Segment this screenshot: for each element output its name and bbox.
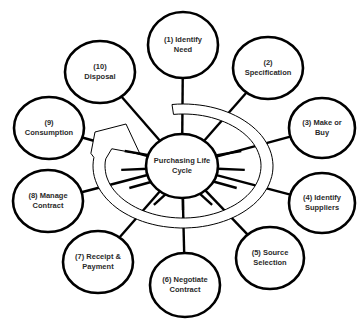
stage-label-line2: Need bbox=[164, 45, 202, 55]
inner-spoke bbox=[129, 182, 152, 189]
center-node-label: Purchasing Life Cycle bbox=[154, 156, 210, 176]
stage-node-2: (2) Specification bbox=[245, 58, 292, 78]
center-label-line2: Cycle bbox=[154, 166, 210, 176]
stage-node-9: (9) Consumption bbox=[25, 118, 73, 138]
stage-node-5: (5) Source Selection bbox=[252, 248, 289, 268]
inner-spoke bbox=[213, 182, 236, 189]
stage-label-line2: Contract bbox=[162, 285, 207, 295]
stage-label-line2: Disposal bbox=[84, 72, 115, 82]
stage-label-line2: Suppliers bbox=[303, 203, 341, 213]
stage-label-line1: (5) Source bbox=[252, 248, 289, 258]
stage-node-10: (10) Disposal bbox=[84, 62, 115, 82]
stage-label-line2: Buy bbox=[302, 128, 342, 138]
inner-spoke bbox=[216, 151, 241, 155]
stage-label-line1: (4) Identify bbox=[303, 193, 341, 203]
stage-label-line1: (9) bbox=[25, 118, 73, 128]
stage-label-line1: (6) Negotiate bbox=[162, 275, 207, 285]
stage-node-1: (1) Identify Need bbox=[164, 35, 202, 55]
inner-spoke bbox=[218, 169, 245, 170]
stage-label-line2: Contract bbox=[28, 201, 67, 211]
stage-label-line1: (2) bbox=[245, 58, 292, 68]
stage-node-3: (3) Make or Buy bbox=[302, 118, 342, 138]
stage-label-line1: (3) Make or bbox=[302, 118, 342, 128]
connector-line bbox=[82, 175, 148, 192]
stage-label-line1: (8) Manage bbox=[28, 191, 67, 201]
stage-node-7: (7) Receipt & Payment bbox=[75, 252, 121, 272]
stage-label-line1: (7) Receipt & bbox=[75, 252, 121, 262]
stage-label-line2: Specification bbox=[245, 68, 292, 78]
stage-node-4: (4) Identify Suppliers bbox=[303, 193, 341, 213]
stage-label-line2: Payment bbox=[75, 262, 121, 272]
stage-node-8: (8) Manage Contract bbox=[28, 191, 67, 211]
center-label-line1: Purchasing Life bbox=[154, 156, 210, 166]
stage-label-line2: Consumption bbox=[25, 128, 73, 138]
stage-label-line1: (1) Identify bbox=[164, 35, 202, 45]
stage-node-6: (6) Negotiate Contract bbox=[162, 275, 207, 295]
purchasing-life-cycle-diagram: Purchasing Life Cycle (1) Identify Need … bbox=[0, 0, 362, 325]
stage-label-line1: (10) bbox=[84, 62, 115, 72]
inner-spoke bbox=[121, 169, 148, 170]
stage-label-line2: Selection bbox=[252, 258, 289, 268]
